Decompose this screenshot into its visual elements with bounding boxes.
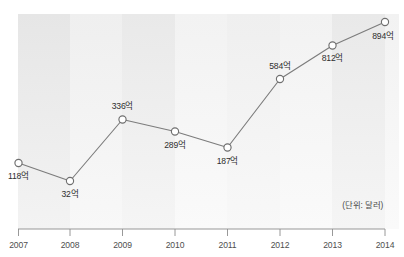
band-2011 [227,14,280,229]
data-point-2010 [171,128,178,135]
x-tick-label-2007: 2007 [9,240,28,250]
data-point-2014 [381,18,388,25]
data-label-2014: 894억 [372,30,394,41]
data-point-2013 [329,42,336,49]
x-tick-label-2014: 2014 [376,240,395,250]
x-tick-label-2013: 2013 [323,240,342,250]
chart-canvas: 2007 2008 2009 2010 2011 2012 2013 2014 … [0,0,404,257]
band-2013 [332,14,385,229]
data-point-2011 [224,144,231,151]
x-tick-label-2011: 2011 [218,240,236,250]
band-2014 [385,14,399,229]
data-label-2012: 584억 [269,60,291,71]
data-label-2008: 32억 [62,188,79,199]
data-point-2009 [119,116,126,123]
x-tick-label-2008: 2008 [61,240,80,250]
data-point-2007 [15,159,22,166]
x-tick-label-2012: 2012 [271,240,290,250]
data-label-2011: 187억 [217,155,239,166]
data-point-2012 [276,75,283,82]
data-label-2007: 118억 [8,170,29,181]
x-tick-label-2010: 2010 [166,240,185,250]
data-label-2010: 289억 [164,139,186,150]
data-label-2009: 336억 [112,100,134,111]
data-point-2008 [66,177,73,184]
data-label-2013: 812억 [322,52,344,63]
unit-note: (단위: 달러) [342,200,383,210]
line-chart: 2007 2008 2009 2010 2011 2012 2013 2014 … [0,0,404,257]
band-2012 [280,14,332,229]
x-tick-label-2009: 2009 [113,240,132,250]
band-2010 [175,14,227,229]
